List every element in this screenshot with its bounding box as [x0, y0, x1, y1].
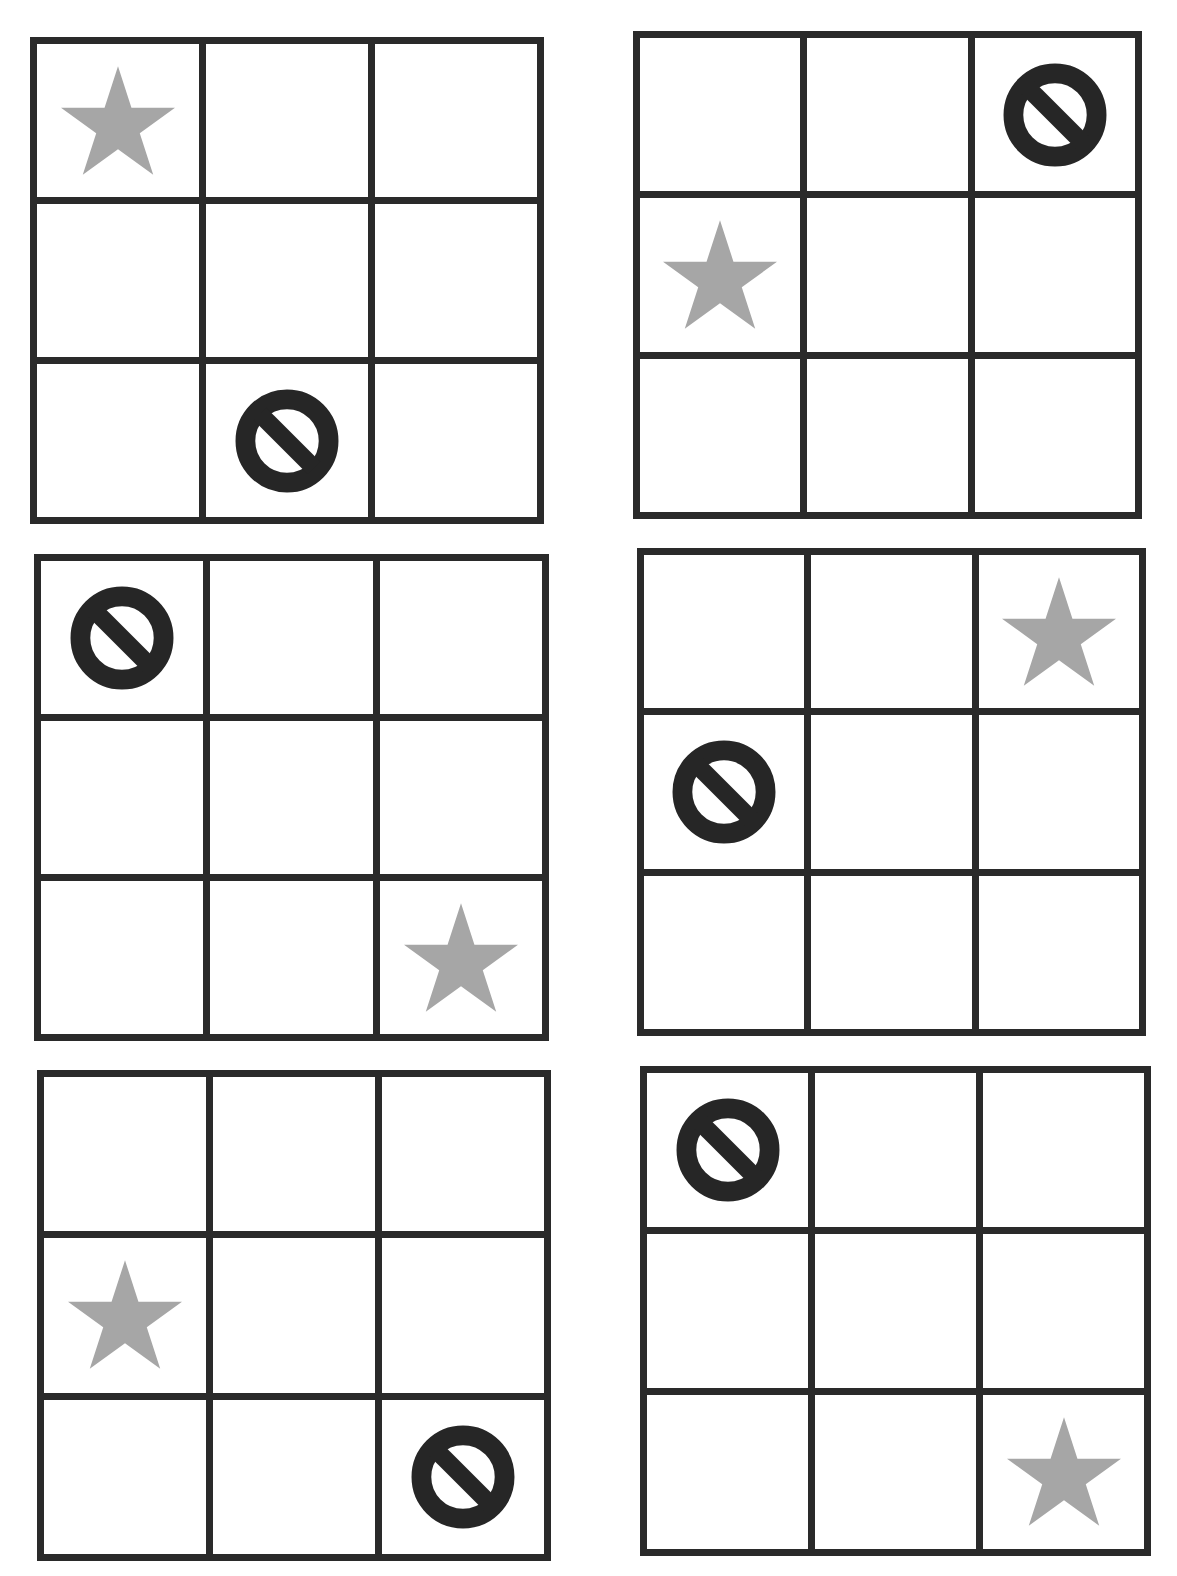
grid-cell-r1-c0: [647, 1234, 808, 1388]
grid-cell-r0-c2: [375, 44, 537, 197]
grid-cell-r1-c0: [644, 715, 804, 868]
grid-middle-left: [34, 554, 549, 1041]
grid-cell-r1-c2: [375, 204, 537, 357]
grid-bottom-left: [37, 1070, 551, 1561]
grid-cell-r0-c1: [807, 38, 967, 191]
no-symbol-icon: [1003, 63, 1107, 167]
grid-cell-r1-c2: [975, 198, 1135, 351]
grid-top-left: [30, 37, 544, 524]
grid-cell-r2-c1: [206, 364, 368, 517]
no-symbol-icon: [70, 586, 174, 690]
grid-cell-r1-c1: [206, 204, 368, 357]
star-icon: [61, 66, 175, 176]
grid-cell-r1-c0: [640, 198, 800, 351]
grid-cell-r2-c1: [815, 1395, 976, 1549]
no-symbol-icon: [411, 1425, 515, 1529]
grid-cell-r2-c2: [979, 876, 1139, 1029]
no-symbol-icon: [672, 740, 776, 844]
grid-cell-r2-c1: [807, 359, 967, 512]
grid-cell-r2-c2: [380, 881, 542, 1034]
grid-bottom-right: [640, 1066, 1151, 1556]
grid-cell-r0-c0: [644, 555, 804, 708]
grid-top-right: [633, 31, 1142, 519]
grid-cell-r2-c2: [375, 364, 537, 517]
grid-cell-r2-c0: [640, 359, 800, 512]
grid-cell-r0-c0: [640, 38, 800, 191]
grid-cell-r2-c0: [644, 876, 804, 1029]
grid-cell-r1-c1: [815, 1234, 976, 1388]
grid-cell-r0-c2: [380, 561, 542, 714]
grid-cell-r0-c2: [975, 38, 1135, 191]
grid-cell-r1-c1: [807, 198, 967, 351]
grid-cell-r0-c2: [983, 1073, 1144, 1227]
grid-cell-r0-c0: [37, 44, 199, 197]
grid-cell-r0-c2: [382, 1077, 544, 1231]
grid-cell-r2-c2: [382, 1400, 544, 1554]
grid-cell-r1-c0: [37, 204, 199, 357]
grid-cell-r1-c1: [811, 715, 971, 868]
star-icon: [1007, 1417, 1121, 1527]
grid-cell-r0-c1: [815, 1073, 976, 1227]
star-icon: [68, 1260, 182, 1370]
grid-cell-r2-c0: [41, 881, 203, 1034]
grid-cell-r0-c0: [44, 1077, 206, 1231]
grid-cell-r1-c1: [213, 1238, 375, 1392]
grid-cell-r2-c1: [811, 876, 971, 1029]
grid-cell-r2-c0: [44, 1400, 206, 1554]
no-symbol-icon: [235, 389, 339, 493]
grid-cell-r0-c1: [210, 561, 372, 714]
star-icon: [1002, 577, 1116, 687]
grid-cell-r0-c1: [206, 44, 368, 197]
grid-cell-r1-c2: [380, 721, 542, 874]
grid-cell-r2-c1: [213, 1400, 375, 1554]
grid-cell-r1-c2: [983, 1234, 1144, 1388]
grid-cell-r2-c2: [983, 1395, 1144, 1549]
grid-cell-r2-c2: [975, 359, 1135, 512]
grid-cell-r2-c1: [210, 881, 372, 1034]
star-icon: [663, 220, 777, 330]
grid-cell-r0-c0: [647, 1073, 808, 1227]
grid-cell-r0-c0: [41, 561, 203, 714]
grid-cell-r1-c0: [41, 721, 203, 874]
grid-cell-r2-c0: [37, 364, 199, 517]
grid-cell-r0-c1: [213, 1077, 375, 1231]
grid-middle-right: [637, 548, 1146, 1036]
grid-cell-r0-c2: [979, 555, 1139, 708]
grid-cell-r1-c2: [979, 715, 1139, 868]
grid-cell-r2-c0: [647, 1395, 808, 1549]
grid-cell-r1-c2: [382, 1238, 544, 1392]
grid-cell-r1-c1: [210, 721, 372, 874]
grid-cell-r0-c1: [811, 555, 971, 708]
star-icon: [404, 903, 518, 1013]
no-symbol-icon: [676, 1098, 780, 1202]
grid-cell-r1-c0: [44, 1238, 206, 1392]
